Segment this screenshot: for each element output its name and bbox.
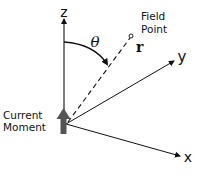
r-vector-label: r bbox=[136, 39, 144, 55]
field-point-marker bbox=[129, 34, 133, 38]
z-axis-label: z bbox=[60, 4, 67, 20]
theta-angle-arc bbox=[64, 42, 107, 64]
dipole-coordinate-diagram: z y x r Field Point θ Current Moment bbox=[0, 0, 198, 184]
theta-angle-label: θ bbox=[90, 33, 99, 51]
x-axis-label: x bbox=[184, 149, 192, 165]
field-point-label-line1: Field bbox=[141, 10, 165, 22]
y-axis-label: y bbox=[178, 48, 187, 66]
current-moment-label-line2: Moment bbox=[3, 121, 46, 133]
current-moment-label: Current Moment bbox=[3, 109, 46, 133]
current-moment-label-line1: Current bbox=[3, 109, 42, 121]
field-point-label: Field Point bbox=[141, 10, 169, 35]
x-axis bbox=[66, 124, 180, 156]
field-point-label-line2: Point bbox=[141, 23, 167, 35]
y-axis bbox=[66, 61, 174, 124]
